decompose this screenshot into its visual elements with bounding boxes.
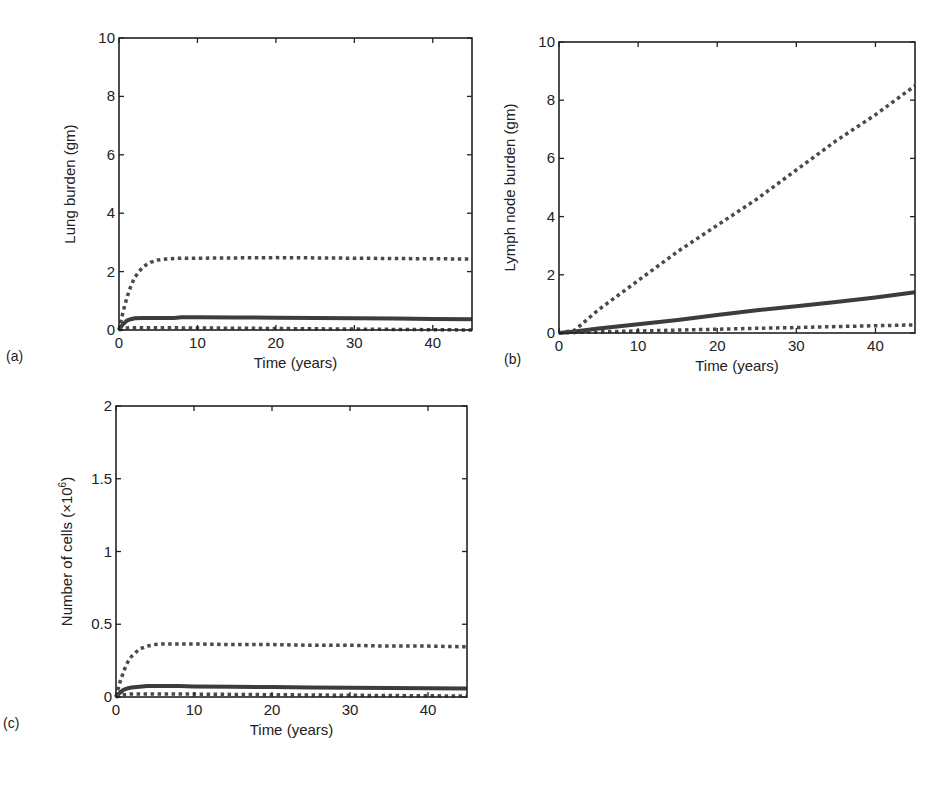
panel-label: (b) — [504, 351, 521, 367]
y-tick-label: 0 — [547, 324, 555, 341]
axes-frame — [559, 42, 915, 333]
series-upper-dotted-line — [559, 86, 915, 333]
y-tick-label: 2 — [547, 266, 555, 283]
series-group — [116, 644, 467, 697]
y-tick-label: 10 — [98, 29, 115, 46]
y-tick-label: 8 — [547, 91, 555, 108]
y-tick-label: 1 — [104, 543, 112, 560]
y-tick-label: 0.5 — [91, 615, 112, 632]
y-tick-label: 8 — [107, 87, 115, 104]
panel-label: (c) — [3, 715, 19, 731]
y-tick-label: 6 — [107, 146, 115, 163]
x-tick-label: 10 — [630, 337, 647, 354]
figure: 0102030400246810Time (years)Lung burden … — [0, 0, 949, 792]
chart-panel-c: 01020304000.511.52Time (years)Number of … — [3, 397, 467, 738]
y-tick-label: 0 — [107, 321, 115, 338]
series-group — [119, 258, 472, 330]
y-tick-label: 0 — [104, 688, 112, 705]
y-tick-label: 4 — [107, 204, 115, 221]
x-tick-label: 20 — [264, 701, 281, 718]
y-tick-label: 6 — [547, 149, 555, 166]
x-tick-label: 0 — [555, 337, 563, 354]
x-tick-label: 30 — [788, 337, 805, 354]
y-tick-label: 2 — [104, 397, 112, 414]
x-tick-label: 30 — [342, 701, 359, 718]
x-tick-label: 40 — [867, 337, 884, 354]
y-axis-label: Lymph node burden (gm) — [501, 104, 518, 272]
y-tick-label: 10 — [538, 33, 555, 50]
x-tick-label: 10 — [189, 334, 206, 351]
series-group — [559, 86, 915, 333]
chart-panel-b: 0102030400246810Time (years)Lymph node b… — [501, 33, 915, 374]
y-tick-label: 1.5 — [91, 470, 112, 487]
x-tick-label: 20 — [709, 337, 726, 354]
axes-frame — [116, 406, 467, 697]
x-tick-label: 10 — [186, 701, 203, 718]
axes-frame — [119, 38, 472, 330]
x-axis-label: Time (years) — [250, 721, 334, 738]
chart-panel-a: 0102030400246810Time (years)Lung burden … — [6, 29, 472, 371]
y-tick-label: 4 — [547, 208, 555, 225]
y-tick-label: 2 — [107, 263, 115, 280]
x-axis-label: Time (years) — [695, 357, 779, 374]
x-tick-label: 20 — [268, 334, 285, 351]
x-tick-label: 40 — [420, 701, 437, 718]
y-axis-label: Lung burden (gm) — [61, 124, 78, 243]
x-tick-label: 30 — [346, 334, 363, 351]
x-tick-label: 40 — [424, 334, 441, 351]
x-tick-label: 0 — [115, 334, 123, 351]
panel-label: (a) — [6, 348, 23, 364]
y-axis-label: Number of cells (×106) — [57, 477, 75, 626]
x-tick-label: 0 — [112, 701, 120, 718]
x-axis-label: Time (years) — [254, 354, 338, 371]
